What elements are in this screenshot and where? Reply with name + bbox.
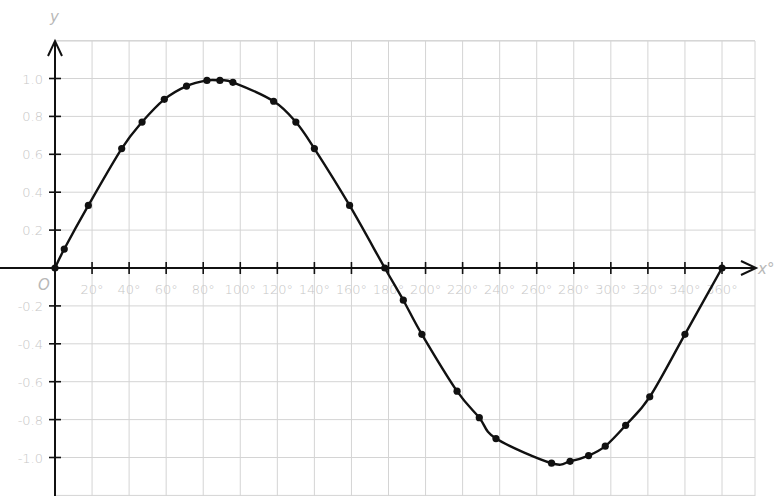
data-point: [270, 98, 277, 105]
x-tick-label: 40°: [118, 282, 141, 297]
y-tick-label: 0.6: [22, 147, 43, 162]
y-tick-label: -0.4: [18, 337, 43, 352]
data-point: [585, 452, 592, 459]
y-tick-label: -0.8: [18, 413, 43, 428]
x-tick-label: 140°: [299, 282, 330, 297]
y-tick-label: -0.6: [18, 375, 43, 390]
data-point: [161, 96, 168, 103]
x-tick-label: 320°: [632, 282, 663, 297]
data-point: [61, 245, 68, 252]
x-tick-label: 100°: [225, 282, 256, 297]
data-point: [418, 331, 425, 338]
x-tick-label: 160°: [336, 282, 367, 297]
data-point: [602, 443, 609, 450]
data-point: [681, 331, 688, 338]
data-point: [216, 77, 223, 84]
data-point: [183, 82, 190, 89]
data-point: [292, 118, 299, 125]
x-tick-label: 300°: [595, 282, 626, 297]
sine-chart: 20°40°60°80°100°120°140°160°180°200°220°…: [0, 0, 775, 501]
x-tick-label: 200°: [410, 282, 441, 297]
data-point: [203, 77, 210, 84]
x-tick-label: 120°: [262, 282, 293, 297]
x-axis-label: x°: [757, 260, 774, 278]
axes: [0, 41, 756, 496]
data-point: [381, 264, 388, 271]
y-tick-label: 0.4: [22, 185, 43, 200]
y-tick-label: -1.0: [18, 451, 43, 466]
x-tick-label: 80°: [192, 282, 215, 297]
x-tick-label: 240°: [484, 282, 515, 297]
y-tick-label: 0.2: [22, 223, 43, 238]
data-point: [566, 458, 573, 465]
data-point: [229, 79, 236, 86]
data-point: [492, 435, 499, 442]
data-point: [646, 393, 653, 400]
data-point: [51, 264, 58, 271]
data-point: [311, 145, 318, 152]
y-tick-label: -0.2: [18, 299, 43, 314]
data-point: [622, 422, 629, 429]
x-tick-label: 340°: [669, 282, 700, 297]
data-point: [476, 414, 483, 421]
x-tick-label: 20°: [81, 282, 104, 297]
x-tick-label: 220°: [447, 282, 478, 297]
data-point: [718, 264, 725, 271]
data-point: [400, 297, 407, 304]
y-axis-label: y: [49, 8, 60, 26]
origin-label: O: [38, 276, 50, 294]
data-point: [453, 388, 460, 395]
data-point: [118, 145, 125, 152]
y-tick-label: 1.0: [22, 72, 43, 87]
x-tick-label: 280°: [558, 282, 589, 297]
data-point: [548, 460, 555, 467]
data-point: [138, 118, 145, 125]
y-tick-label: 0.8: [22, 109, 43, 124]
x-tick-label: 60°: [155, 282, 178, 297]
x-tick-label: 260°: [521, 282, 552, 297]
data-point: [85, 202, 92, 209]
data-point: [346, 202, 353, 209]
